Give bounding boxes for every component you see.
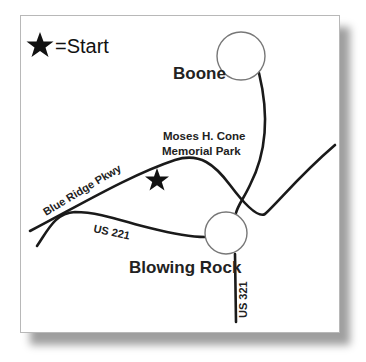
label-boone: Boone xyxy=(173,64,226,83)
road-boone-connector xyxy=(236,73,265,213)
legend-text: =Start xyxy=(55,35,109,57)
legend-star-icon xyxy=(27,32,54,57)
label-blowing-rock: Blowing Rock xyxy=(129,258,242,277)
label-us-321: US 321 xyxy=(237,281,249,318)
map-canvas: =Start Boone Moses H. Cone Memorial Park… xyxy=(0,0,366,362)
label-park-line2: Memorial Park xyxy=(162,145,241,157)
label-us-221: US 221 xyxy=(93,222,131,241)
label-park-line1: Moses H. Cone xyxy=(163,130,245,142)
label-blue-ridge-pkwy: Blue Ridge Pkwy xyxy=(41,161,124,217)
town-circle-blowing-rock[interactable] xyxy=(205,212,247,254)
